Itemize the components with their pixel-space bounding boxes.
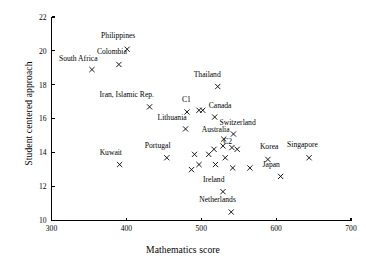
data-point <box>192 152 197 157</box>
data-point <box>278 174 283 179</box>
data-point <box>116 62 121 67</box>
data-point <box>183 126 188 131</box>
point-label: Singapore <box>287 141 318 149</box>
x-tick-label: 700 <box>345 224 357 233</box>
point-label: Iran, Islamic Rep. <box>100 91 154 99</box>
y-tick-label: 20 <box>39 47 47 56</box>
point-label: Portugal <box>145 142 171 150</box>
y-tick-labels: 10121416182022 <box>39 13 47 226</box>
x-tick-label: 500 <box>196 224 208 233</box>
y-axis-title: Student centered approach <box>23 24 34 204</box>
y-tick-label: 16 <box>39 114 47 123</box>
data-point <box>189 167 194 172</box>
x-axis-title: Mathematics score <box>0 244 366 255</box>
y-tick-label: 14 <box>39 148 47 157</box>
point-label: C1 <box>182 96 191 104</box>
x-tick-labels: 300400500600700 <box>46 224 357 233</box>
point-label: Kuwait <box>100 149 122 157</box>
plot-canvas: 10121416182022 300400500600700 <box>0 0 366 268</box>
point-label: Lithuania <box>158 114 187 122</box>
point-label: Netherlands <box>199 196 236 204</box>
data-point <box>206 152 211 157</box>
data-point <box>213 162 218 167</box>
data-point <box>212 114 217 119</box>
x-tick-label: 400 <box>121 224 133 233</box>
point-label: Korea <box>260 143 279 151</box>
data-point <box>147 104 152 109</box>
x-tick-label: 600 <box>270 224 282 233</box>
point-label: Australia <box>202 126 230 134</box>
data-point <box>223 155 228 160</box>
point-label: Philippines <box>101 32 135 40</box>
data-point <box>196 108 201 113</box>
point-label: Japan <box>263 161 280 169</box>
data-point <box>247 165 252 170</box>
point-label: Ireland <box>203 176 225 184</box>
data-point <box>231 131 236 136</box>
point-label: Colombia <box>97 48 127 56</box>
point-label: South Africa <box>59 55 98 63</box>
data-point <box>230 165 235 170</box>
data-point <box>164 155 169 160</box>
data-point <box>196 162 201 167</box>
y-tick-label: 12 <box>39 182 47 191</box>
y-tick-label: 22 <box>39 13 47 22</box>
data-point <box>220 189 225 194</box>
data-point <box>89 67 94 72</box>
data-point <box>211 147 216 152</box>
data-point <box>229 209 234 214</box>
scatter-chart-figure: 10121416182022 300400500600700 Philippin… <box>0 0 366 268</box>
x-tick-label: 300 <box>46 224 58 233</box>
data-point <box>306 155 311 160</box>
point-label: C2 <box>223 138 232 146</box>
data-point <box>229 145 234 150</box>
y-tick-label: 18 <box>39 81 47 90</box>
point-label: Thailand <box>194 71 221 79</box>
point-label: Canada <box>209 102 232 110</box>
data-point <box>215 84 220 89</box>
data-point <box>235 147 240 152</box>
data-point <box>117 162 122 167</box>
